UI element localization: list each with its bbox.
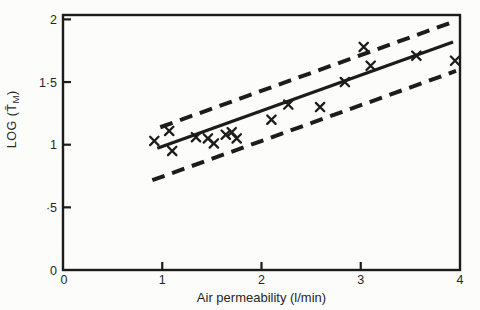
data-point-marker bbox=[210, 139, 218, 147]
data-point-marker bbox=[267, 115, 275, 123]
y-axis-label-text: LOG (T̄ bbox=[5, 104, 19, 149]
x-tick-label: 4 bbox=[457, 273, 464, 287]
confidence-band-lower-band bbox=[152, 71, 456, 180]
x-tick-label: 1 bbox=[159, 273, 166, 287]
y-axis-label-subscript: M bbox=[10, 95, 21, 104]
y-tick-label: 1 bbox=[50, 138, 57, 152]
x-tick-label: 2 bbox=[258, 273, 265, 287]
data-point-marker bbox=[232, 134, 240, 142]
y-tick-label: ·5 bbox=[46, 201, 57, 215]
x-tick-label: 0 bbox=[61, 273, 68, 287]
data-point-marker bbox=[360, 43, 368, 51]
data-point-marker bbox=[451, 57, 459, 65]
y-axis-label: LOG (T̄M) bbox=[5, 59, 22, 179]
confidence-band-upper-band bbox=[160, 21, 455, 127]
x-tick-label: 3 bbox=[357, 273, 364, 287]
y-tick-label: 1·5 bbox=[39, 76, 57, 90]
data-point-marker bbox=[168, 147, 176, 155]
data-point-marker bbox=[316, 103, 324, 111]
data-point-marker bbox=[165, 127, 173, 135]
regression-line bbox=[157, 42, 453, 148]
x-axis-label: Air permeability (l/min) bbox=[63, 290, 460, 305]
scatter-plot-canvas: 012340·511·52 bbox=[0, 0, 480, 310]
chart-figure: 012340·511·52 LOG (T̄M) Air permeability… bbox=[0, 0, 480, 310]
y-tick-label: 0 bbox=[50, 264, 57, 278]
data-point-marker bbox=[366, 62, 374, 70]
data-point-marker bbox=[150, 137, 158, 145]
y-tick-label: 2 bbox=[50, 13, 57, 27]
y-axis-label-close: ) bbox=[5, 90, 19, 95]
